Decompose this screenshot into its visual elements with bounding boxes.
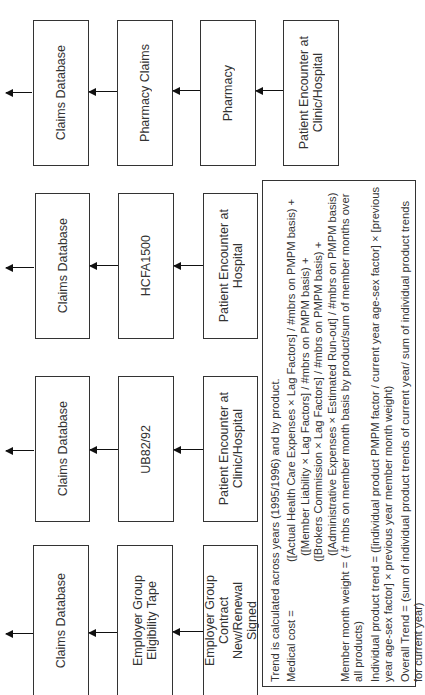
arrow-pharmacy [173,90,201,91]
medical-cost-terms: ([Actual Health Care Expenses × Lag Fact… [285,193,339,562]
node-label: Patient Encounter at Clinic/Hospital [217,392,245,505]
node-label: Pharmacy [221,65,235,121]
arrow-eligibility-tape [89,632,117,633]
medical-cost-term: ([Actual Health Care Expenses × Lag Fact… [285,193,298,562]
node-label: HCFA1500 [139,235,153,296]
arrow-ub [90,449,118,450]
node-label: Patient Encounter at Hospital [217,209,245,322]
node-pharmacy-claims: Pharmacy Claims [117,20,173,166]
arrow-pharmacy-claims [89,91,117,92]
arrow-hcfa [90,265,118,266]
node-label: Pharmacy Claims [138,44,152,142]
individual-product-trend: Individual product trend = ([individual … [369,187,396,682]
arrow-employer-contract [173,631,203,632]
arrow-ub-out [6,450,34,451]
notes-box: Trend is calculated across years (1995/1… [262,180,416,687]
arrow-encounter-clinic [174,449,203,450]
node-label: Employer Group Contract New/Renewal Sign… [203,575,259,666]
node-claims-database-hcfa: Claims Database [35,193,90,339]
arrow-eligibility-out [6,633,33,634]
node-label: UB82/92 [139,425,153,474]
node-hcfa1500: HCFA1500 [118,193,174,339]
medical-cost-label: Medical cost = [285,562,339,682]
node-patient-encounter-clinic: Patient Encounter at Clinic/Hospital [203,376,258,522]
node-label: Claims Database [54,573,68,668]
medical-cost-formula: Medical cost = ([Actual Health Care Expe… [285,187,339,682]
overall-trend: Overall Trend = (sum of individual produ… [399,187,425,682]
node-claims-database-eligibility: Claims Database [33,545,89,695]
member-month-weight: Member month weight = ( # mbrs on member… [339,187,366,682]
arrow-pharmacy-out [6,92,32,93]
medical-cost-term: ([Administrative Expenses × Estimated Ru… [326,193,339,562]
node-ub82-92: UB82/92 [118,376,174,522]
arrow-encounter-hospital [174,265,203,266]
arrow-hcfa-out [6,267,34,268]
node-patient-encounter-hospital: Patient Encounter at Hospital [203,193,258,339]
node-employer-contract: Employer Group Contract New/Renewal Sign… [203,545,258,695]
arrow-encounter-pharmacy [256,90,283,91]
notes-intro: Trend is calculated across years (1995/1… [269,187,282,682]
node-claims-database-pharmacy: Claims Database [33,20,89,166]
medical-cost-term: ([Member Liability × Lag Factors] / #mbr… [299,193,312,562]
node-label: Patient Encounter at Clinic/Hospital [297,36,325,149]
node-employer-eligibility-tape: Employer Group Eligibility Tape [117,545,173,695]
node-label: Employer Group Eligibility Tape [131,575,159,666]
medical-cost-term: ([Brokers Commission × Lag Factors] / #m… [312,193,325,562]
node-label: Claims Database [54,45,68,140]
node-label: Claims Database [56,401,70,496]
notes-content: Trend is calculated across years (1995/1… [269,187,409,682]
node-patient-encounter-pharmacy: Patient Encounter at Clinic/Hospital [283,20,339,166]
node-label: Claims Database [56,218,70,313]
node-pharmacy: Pharmacy [200,20,256,166]
node-claims-database-ub: Claims Database [35,376,90,522]
